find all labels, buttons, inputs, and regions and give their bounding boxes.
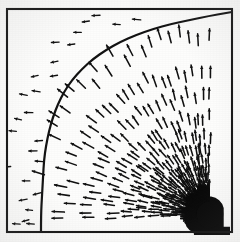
- figure-panel: [0, 0, 240, 242]
- vector-field-plot: [0, 0, 240, 242]
